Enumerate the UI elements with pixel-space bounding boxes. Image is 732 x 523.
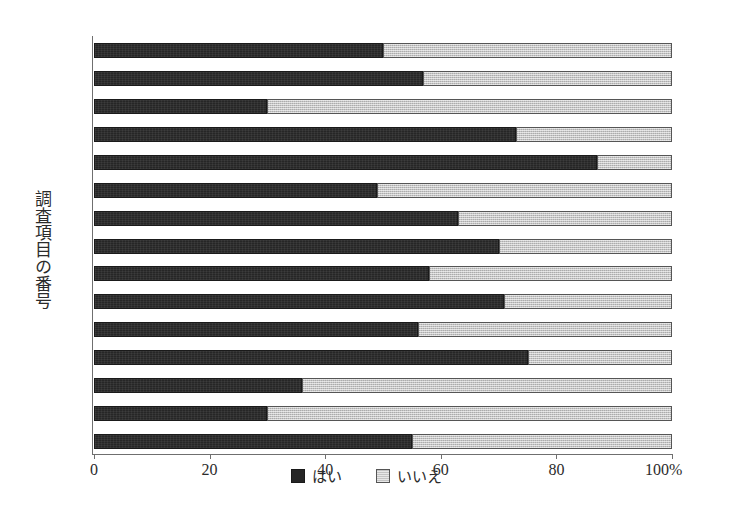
legend-item: はい — [291, 465, 342, 486]
bar-row — [94, 434, 672, 449]
x-tick-mark — [94, 454, 95, 459]
bar-segment-yes — [94, 127, 516, 142]
bar-row — [94, 239, 672, 254]
bar-segment-yes — [94, 350, 528, 365]
bar-segment-yes — [94, 99, 267, 114]
bar-segment-no — [302, 378, 672, 393]
bar-segment-no — [504, 294, 672, 309]
chart-figure: 調査項目の番号 020406080100% 123456789101112131… — [0, 0, 732, 523]
bar-row — [94, 71, 672, 86]
bar-row — [94, 211, 672, 226]
chart-legend: はいいいえ — [0, 465, 732, 486]
bar-segment-yes — [94, 239, 499, 254]
bar-row — [94, 406, 672, 421]
legend-label: はい — [312, 465, 342, 486]
bar-segment-no — [267, 406, 672, 421]
bar-segment-yes — [94, 155, 597, 170]
bar-row — [94, 155, 672, 170]
plot-area: 020406080100% 123456789101112131415 — [94, 36, 672, 454]
bar-row — [94, 322, 672, 337]
bar-segment-yes — [94, 378, 302, 393]
bar-segment-yes — [94, 322, 418, 337]
bar-segment-no — [429, 266, 672, 281]
bar-segment-no — [418, 322, 672, 337]
bar-segment-yes — [94, 294, 504, 309]
bar-row — [94, 266, 672, 281]
legend-item: いいえ — [376, 465, 442, 486]
legend-label: いいえ — [397, 465, 442, 486]
bar-segment-no — [516, 127, 672, 142]
bar-segment-no — [267, 99, 672, 114]
bar-segment-no — [528, 350, 673, 365]
bar-row — [94, 294, 672, 309]
x-tick-mark — [210, 454, 211, 459]
gray-swatch — [376, 469, 390, 483]
bar-segment-no — [423, 71, 672, 86]
bar-row — [94, 127, 672, 142]
bar-segment-yes — [94, 434, 412, 449]
bar-segment-yes — [94, 43, 383, 58]
x-tick-mark — [441, 454, 442, 459]
x-tick-mark — [556, 454, 557, 459]
bar-segment-no — [383, 43, 672, 58]
bar-segment-no — [597, 155, 672, 170]
bar-row — [94, 183, 672, 198]
bar-segment-no — [499, 239, 672, 254]
bar-row — [94, 378, 672, 393]
bar-segment-no — [377, 183, 672, 198]
bar-row — [94, 350, 672, 365]
bar-segment-yes — [94, 266, 429, 281]
x-tick-mark — [325, 454, 326, 459]
y-axis-title: 調査項目の番号 — [20, 162, 52, 337]
bar-row — [94, 99, 672, 114]
bar-segment-no — [458, 211, 672, 226]
x-axis-line — [92, 454, 673, 455]
bar-segment-yes — [94, 183, 377, 198]
bar-segment-yes — [94, 406, 267, 421]
bar-segment-no — [412, 434, 672, 449]
x-tick-mark — [672, 454, 673, 459]
y-axis-line — [92, 36, 93, 454]
bar-row — [94, 43, 672, 58]
black-swatch — [291, 469, 305, 483]
bar-segment-yes — [94, 211, 458, 226]
bar-segment-yes — [94, 71, 423, 86]
